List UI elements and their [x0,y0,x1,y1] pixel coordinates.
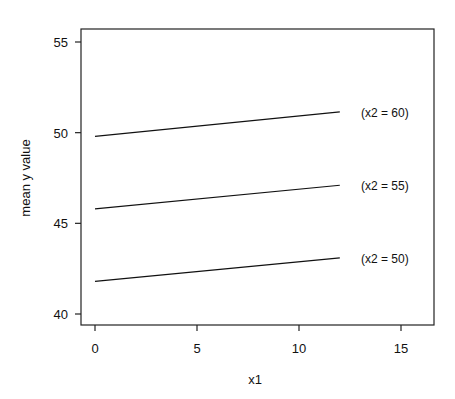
series-label: (x2 = 60) [361,106,409,120]
x-tick-label: 0 [91,341,98,356]
y-tick-label: 50 [54,126,68,141]
series-line [95,185,340,209]
y-tick-label: 45 [54,216,68,231]
x-axis-label: x1 [248,372,262,387]
x-tick-label: 10 [292,341,306,356]
series-label: (x2 = 50) [361,252,409,266]
y-tick-label: 55 [54,35,68,50]
series-label: (x2 = 55) [361,179,409,193]
x-tick-label: 15 [394,341,408,356]
y-axis-label: mean y value [18,139,33,216]
plot-frame [81,29,434,325]
x-tick-label: 5 [193,341,200,356]
series-line [95,258,340,282]
line-chart: 05101540455055x1mean y value(x2 = 60)(x2… [0,0,455,399]
series-line [95,112,340,136]
y-tick-label: 40 [54,307,68,322]
